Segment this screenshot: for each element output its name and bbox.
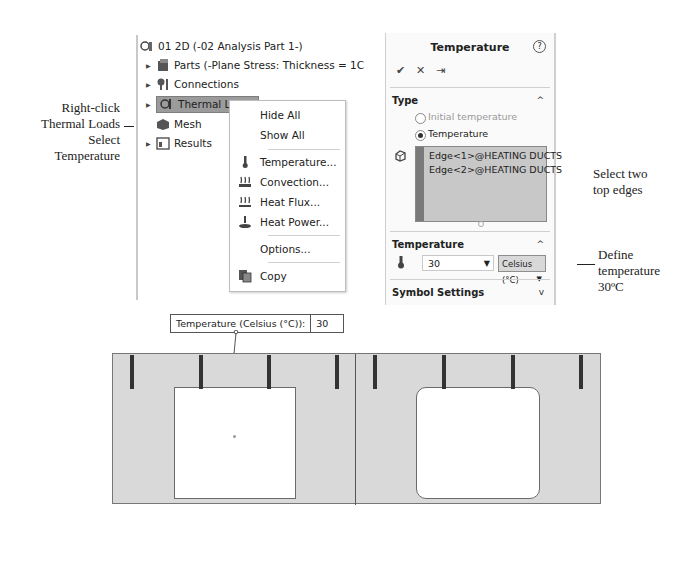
cancel-button[interactable]: ✕ <box>416 64 425 77</box>
menu-separator <box>268 262 340 263</box>
heat-flux-icon <box>238 195 252 209</box>
ok-button[interactable]: ✔ <box>396 64 405 77</box>
rounded-hole <box>416 387 540 499</box>
selection-color-bar <box>416 147 424 221</box>
connections-icon <box>156 78 170 91</box>
tree-item-label: Parts (-Plane Stress: Thickness = 1C <box>174 59 364 71</box>
study-icon <box>140 40 154 53</box>
unit-value: Celsius (°C) <box>502 259 532 285</box>
menu-separator <box>268 235 340 236</box>
selected-edge-item[interactable]: Edge<1>@HEATING DUCTS <box>429 150 562 161</box>
temperature-symbol <box>267 355 271 389</box>
annotation-line: temperature <box>598 263 660 279</box>
mesh-icon <box>156 118 170 131</box>
annotation-line: Thermal Loads <box>40 116 120 132</box>
pm-title: Temperature <box>386 41 554 54</box>
temperature-value-input[interactable]: 30 ▼ <box>422 255 494 271</box>
menu-item-convection[interactable]: Convection... <box>230 172 345 192</box>
expand-arrow-icon[interactable]: ▶ <box>146 101 156 108</box>
convection-icon <box>238 175 252 189</box>
divider <box>390 279 550 280</box>
tree-item-label: Connections <box>174 78 239 90</box>
annotation-line: 30ºC <box>598 279 660 295</box>
temperature-callout[interactable]: Temperature (Celsius (°C)): 30 <box>170 314 344 333</box>
collapse-caret-icon[interactable]: ^ <box>536 95 544 105</box>
heating-ducts-model[interactable] <box>112 353 601 504</box>
menu-item-heat-flux[interactable]: Heat Flux... <box>230 192 345 212</box>
menu-item-label: Copy <box>260 270 287 282</box>
menu-item-label: Convection... <box>260 176 329 188</box>
menu-item-temperature[interactable]: Temperature... <box>230 152 345 172</box>
temperature-property-manager: Temperature ? ✔ ✕ ⇥ Type ^ Initial tempe… <box>385 33 556 305</box>
tree-item-connections[interactable]: ▶ Connections <box>146 75 239 93</box>
type-section-heading: Type <box>392 95 418 106</box>
heat-power-icon <box>238 215 252 229</box>
thermometer-icon <box>396 254 406 273</box>
tree-item-mesh[interactable]: Mesh <box>146 115 202 133</box>
initial-temperature-radio[interactable] <box>415 113 426 124</box>
radio-label: Initial temperature <box>428 111 517 122</box>
menu-item-label: Temperature... <box>260 156 337 168</box>
temperature-symbol <box>579 355 583 389</box>
tree-root-label: 01 2D (-02 Analysis Part 1-) <box>158 40 303 52</box>
edge-selection-icon <box>394 147 406 166</box>
annotation-line: Right-click <box>40 100 120 116</box>
symmetry-edge <box>355 354 356 505</box>
temperature-symbol <box>199 355 203 389</box>
annotation-line: top edges <box>593 182 648 198</box>
temperature-radio[interactable] <box>415 130 426 141</box>
divider <box>390 87 550 88</box>
callout-label: Temperature (Celsius (°C)): <box>171 315 311 332</box>
pin-button[interactable]: ⇥ <box>436 64 445 77</box>
annotation-line: Select <box>40 132 120 148</box>
symbol-settings-heading: Symbol Settings <box>392 287 484 298</box>
selected-entities-list[interactable]: Edge<1>@HEATING DUCTS Edge<2>@HEATING DU… <box>415 146 547 222</box>
temperature-symbol <box>511 355 515 389</box>
unit-select[interactable]: Celsius (°C) ▼ <box>498 255 546 272</box>
annotation-line: Temperature <box>40 148 120 164</box>
temperature-value: 30 <box>428 258 440 269</box>
thermometer-icon <box>238 155 252 169</box>
dropdown-arrow-icon[interactable]: ▼ <box>484 256 490 272</box>
divider <box>390 231 550 232</box>
menu-item-show-all[interactable]: Show All <box>230 125 345 145</box>
annotation-right-click: Right-click Thermal Loads Select Tempera… <box>40 100 120 164</box>
tree-item-results[interactable]: ▶ Results <box>146 134 212 152</box>
thermal-loads-icon <box>160 98 174 111</box>
annotation-select-edges: Select two top edges <box>593 166 648 198</box>
selected-edge-item[interactable]: Edge<2>@HEATING DUCTS <box>429 164 562 175</box>
temperature-symbol <box>335 355 339 389</box>
menu-item-heat-power[interactable]: Heat Power... <box>230 212 345 232</box>
copy-icon <box>238 269 252 283</box>
expand-caret-icon[interactable]: v <box>539 287 544 297</box>
annotation-line: Define <box>598 247 660 263</box>
annotation-leader-line <box>577 264 595 265</box>
menu-separator <box>268 149 340 150</box>
context-menu: Hide All Show All Temperature... Convect… <box>229 100 346 292</box>
temperature-symbol <box>373 355 377 389</box>
callout-value: 30 <box>311 318 343 329</box>
help-icon[interactable]: ? <box>533 40 546 53</box>
menu-item-label: Heat Flux... <box>260 196 320 208</box>
tree-item-parts[interactable]: ▶ Parts (-Plane Stress: Thickness = 1C <box>146 56 364 74</box>
menu-item-hide-all[interactable]: Hide All <box>230 105 345 125</box>
menu-item-label: Heat Power... <box>260 216 329 228</box>
collapse-caret-icon[interactable]: ^ <box>536 239 544 249</box>
temperature-section-heading: Temperature <box>392 239 464 250</box>
menu-item-options[interactable]: Options... <box>230 239 345 259</box>
annotation-line: Select two <box>593 166 648 182</box>
annotation-define-temperature: Define temperature 30ºC <box>598 247 660 295</box>
resize-handle[interactable] <box>478 221 484 227</box>
results-icon <box>156 137 170 150</box>
expand-arrow-icon[interactable]: ▶ <box>146 140 156 147</box>
expand-arrow-icon[interactable]: ▶ <box>146 81 156 88</box>
tree-item-label: Results <box>174 137 212 149</box>
tree-root[interactable]: 01 2D (-02 Analysis Part 1-) <box>140 37 303 55</box>
tree-item-label: Mesh <box>174 118 202 130</box>
menu-item-label: Show All <box>260 129 305 141</box>
temperature-symbol <box>130 355 134 389</box>
menu-item-copy[interactable]: Copy <box>230 266 345 286</box>
expand-arrow-icon[interactable]: ▶ <box>146 62 156 69</box>
radio-label: Temperature <box>428 128 488 139</box>
annotation-leader-line <box>124 126 134 127</box>
